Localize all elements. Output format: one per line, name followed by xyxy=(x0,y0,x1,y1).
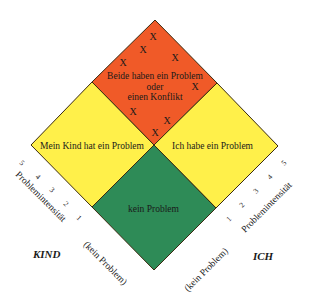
left-party-label: KIND xyxy=(33,248,61,260)
region-bottom-label: kein Problem xyxy=(128,205,179,215)
right-party-label: ICH xyxy=(253,250,273,262)
conflict-mark: X xyxy=(119,58,126,68)
conflict-mark: X xyxy=(149,32,156,42)
conflict-mark: X xyxy=(151,128,158,138)
region-right-label: Ich habe ein Problem xyxy=(172,142,253,152)
conflict-mark: X xyxy=(139,45,146,55)
region-top-label-line3: einen Konflikt xyxy=(95,93,215,103)
conflict-mark: X xyxy=(191,82,198,92)
conflict-mark: X xyxy=(171,53,178,63)
region-left-label: Mein Kind hat ein Problem xyxy=(40,142,144,152)
conflict-mark: X xyxy=(163,116,170,126)
conflict-mark: X xyxy=(129,107,136,117)
